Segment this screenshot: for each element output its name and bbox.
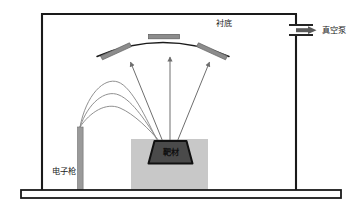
electron-gun-column [78,127,84,190]
electron-beam-trajectory-2 [80,94,159,142]
vapor-flux-arrows [131,57,210,142]
substrate-plate-center [149,34,180,38]
electron-beam-trajectories [80,81,160,142]
electron-gun-label: 电子枪 [52,166,77,176]
substrate-plate-left [101,43,132,60]
electron-beam-trajectory-3 [80,106,160,142]
target-label: 靶材 [163,147,180,157]
base-plate [21,190,341,198]
substrate-label: 衬底 [216,18,232,28]
vapor-flux-arrow-left [131,62,164,142]
vacuum-pump-flow-arrow [296,26,317,34]
diagram-canvas: 真空泵 衬底 [0,0,363,217]
substrate-plate-right [197,43,228,60]
vacuum-pump-label: 真空泵 [322,25,347,35]
vapor-flux-arrow-right [177,62,210,142]
electron-beam-trajectory-1 [80,81,158,142]
ebpvd-schematic: 真空泵 衬底 [0,0,363,217]
